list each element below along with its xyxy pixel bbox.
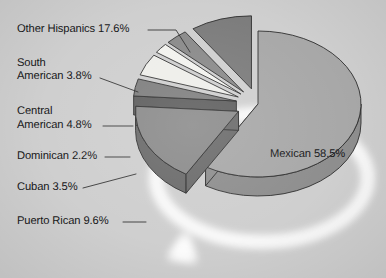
slice-label-south-american-line2: American 3.8%: [17, 70, 92, 83]
slice-label-central-american-line2: American 4.8%: [17, 119, 92, 132]
slice-label-cuban: Cuban 3.5%: [17, 181, 78, 194]
slice-label-mexican: Mexican 58.5%: [270, 148, 345, 161]
slice-label-puerto-rican: Puerto Rican 9.6%: [17, 215, 109, 228]
slice-label-other-hispanics: Other Hispanics 17.6%: [17, 23, 129, 36]
slice-label-central-american-line1: Central: [17, 105, 52, 118]
leader-line-cuban: [83, 174, 136, 188]
slice-label-dominican: Dominican 2.2%: [17, 150, 97, 163]
pie-chart-figure: Other Hispanics 17.6% South American 3.8…: [0, 0, 386, 278]
leader-line-south-american: [100, 78, 138, 92]
slice-label-south-american-line1: South: [17, 57, 46, 70]
pie-chart-canvas: [0, 0, 386, 278]
